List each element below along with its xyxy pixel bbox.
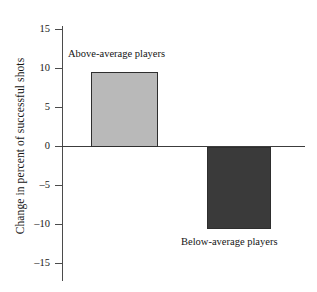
bar-label-above-average: Above-average players	[68, 48, 165, 59]
y-axis-line	[62, 26, 63, 281]
y-tick-label: –5	[0, 180, 50, 191]
y-tick-mark	[55, 224, 62, 225]
y-tick-mark	[55, 29, 62, 30]
y-tick-label: 0	[0, 141, 50, 152]
y-tick-mark	[55, 68, 62, 69]
y-tick-mark	[55, 263, 62, 264]
bar-below-average-players[interactable]	[207, 147, 271, 229]
bar-label-below-average: Below-average players	[181, 236, 278, 247]
y-tick-mark	[55, 185, 62, 186]
y-tick-label: 5	[0, 102, 50, 113]
y-tick-label: 10	[0, 63, 50, 74]
y-tick-mark	[55, 107, 62, 108]
plot-area: 15 10 5 0 –5 –10 –15 Above-ave	[0, 0, 317, 292]
bar-chart-figure: Change in percent of successful shots 15…	[0, 0, 317, 292]
bar-above-average-players[interactable]	[91, 72, 158, 147]
y-tick-label: 15	[0, 24, 50, 35]
y-tick-mark	[55, 146, 62, 147]
y-tick-label: –15	[0, 258, 50, 269]
y-tick-label: –10	[0, 219, 50, 230]
